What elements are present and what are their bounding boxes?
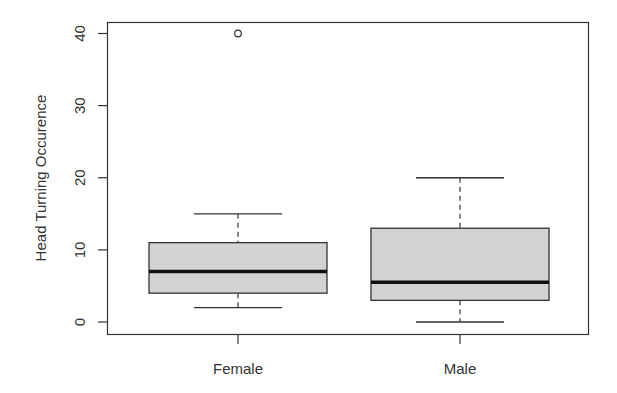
boxes [149, 30, 549, 322]
y-tick-label: 10 [71, 242, 88, 259]
box-female [149, 30, 327, 307]
y-tick-label: 20 [71, 169, 88, 186]
y-tick-label: 40 [71, 25, 88, 42]
x-tick-label: Male [444, 360, 477, 377]
y-tick-label: 30 [71, 97, 88, 114]
iqr-box [371, 228, 549, 300]
y-tick-label: 0 [71, 318, 88, 326]
outlier-point [235, 30, 242, 37]
boxplot-chart: 010203040 FemaleMale Head Turning Occure… [0, 0, 617, 393]
y-axis: 010203040 [71, 25, 108, 326]
iqr-box [149, 243, 327, 293]
y-axis-title: Head Turning Occurence [32, 95, 49, 262]
x-axis: FemaleMale [213, 335, 476, 378]
x-tick-label: Female [213, 360, 263, 377]
box-male [371, 178, 549, 322]
